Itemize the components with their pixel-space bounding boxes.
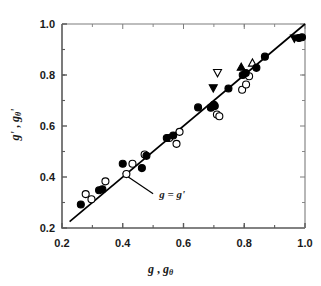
y-axis-label-prime: ' (8, 109, 22, 112)
svg-text:1.0: 1.0 (40, 18, 55, 30)
svg-text:g = g': g = g' (158, 188, 185, 200)
plot-canvas: 0.20.40.60.81.00.20.40.60.81.0 g = g' (0, 0, 321, 286)
svg-text:0.8: 0.8 (40, 69, 55, 81)
y-axis-label-main: g' (8, 131, 22, 140)
svg-text:0.8: 0.8 (237, 237, 252, 249)
y-axis-label: g' , gθ' (8, 80, 23, 170)
y-axis-label-subscript: θ (14, 112, 23, 116)
x-axis-label: g , gθ (0, 262, 321, 277)
svg-text:0.2: 0.2 (40, 222, 55, 234)
x-axis-label-subscript: θ (169, 268, 173, 277)
data-markers (77, 34, 305, 208)
svg-text:0.6: 0.6 (176, 237, 191, 249)
y-axis-label-sub-base: g (8, 116, 22, 122)
scatter-plot-figure: 0.20.40.60.81.00.20.40.60.81.0 g = g' g … (0, 0, 321, 286)
svg-text:0.4: 0.4 (40, 171, 56, 183)
y-axis-label-separator: , (8, 122, 22, 131)
svg-text:0.4: 0.4 (115, 237, 131, 249)
x-axis-label-separator: , (154, 262, 163, 276)
svg-text:0.2: 0.2 (54, 237, 69, 249)
svg-text:1.0: 1.0 (297, 237, 312, 249)
annotation-label: g = g' (158, 188, 185, 200)
svg-text:0.6: 0.6 (40, 120, 55, 132)
